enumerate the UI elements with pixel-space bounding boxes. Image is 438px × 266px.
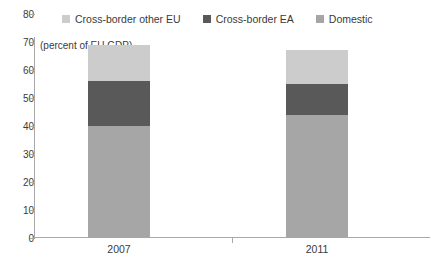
bar-segment-cross-border-ea[interactable] (286, 84, 348, 115)
y-tick-label-40: 40 (0, 121, 34, 132)
y-tick-label-80: 80 (0, 9, 34, 20)
y-tick-mark-40 (30, 126, 35, 127)
y-tick-mark-80 (30, 14, 35, 15)
legend-label-cross-border-ea: Cross-border EA (216, 14, 294, 25)
y-tick-mark-0 (30, 238, 35, 239)
y-tick-label-20: 20 (0, 177, 34, 188)
y-tick-label-30: 30 (0, 149, 34, 160)
y-tick-mark-70 (30, 42, 35, 43)
y-tick-label-60: 60 (0, 65, 34, 76)
y-tick-label-0: 0 (0, 233, 34, 244)
bar-segment-domestic[interactable] (88, 126, 150, 238)
legend-swatch-cross-border-ea (203, 15, 211, 23)
chart-legend: Cross-border other EU Cross-border EA Do… (62, 12, 382, 26)
bar-segment-domestic[interactable] (286, 115, 348, 238)
y-tick-mark-30 (30, 154, 35, 155)
bar-segment-cross-border-other-eu[interactable] (88, 45, 150, 81)
bar-segment-cross-border-ea[interactable] (88, 81, 150, 126)
y-tick-label-10: 10 (0, 205, 34, 216)
legend-item-cross-border-other-eu: Cross-border other EU (62, 14, 181, 25)
y-tick-mark-60 (30, 70, 35, 71)
legend-label-domestic: Domestic (329, 14, 373, 25)
legend-item-cross-border-ea: Cross-border EA (203, 14, 294, 25)
y-tick-mark-50 (30, 98, 35, 99)
y-tick-mark-20 (30, 182, 35, 183)
legend-swatch-domestic (316, 15, 324, 23)
x-axis-label-2007: 2007 (59, 243, 179, 255)
y-tick-label-70: 70 (0, 37, 34, 48)
bar-2007[interactable] (88, 45, 150, 238)
x-axis-label-2011: 2011 (257, 243, 377, 255)
chart-container: Cross-border other EU Cross-border EA Do… (0, 0, 438, 266)
y-tick-label-50: 50 (0, 93, 34, 104)
legend-item-domestic: Domestic (316, 14, 373, 25)
bar-2011[interactable] (286, 50, 348, 238)
legend-label-cross-border-other-eu: Cross-border other EU (75, 14, 181, 25)
legend-swatch-cross-border-other-eu (62, 15, 70, 23)
y-tick-mark-10 (30, 210, 35, 211)
x-tick-mark-middle (232, 238, 233, 243)
bar-segment-cross-border-other-eu[interactable] (286, 50, 348, 84)
